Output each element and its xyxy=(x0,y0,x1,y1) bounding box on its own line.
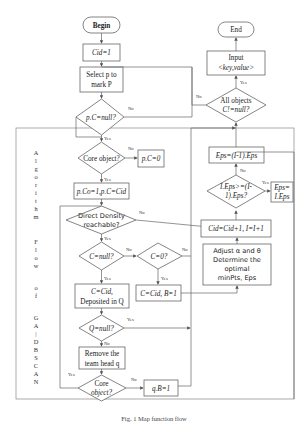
svg-text:o: o xyxy=(34,173,37,180)
svg-text:No: No xyxy=(196,94,202,99)
svg-text:G: G xyxy=(34,314,39,321)
core-object-decision: Core object? xyxy=(78,142,125,174)
svg-text:S: S xyxy=(34,354,38,361)
svg-text:No: No xyxy=(139,210,145,215)
svg-text:Eps=(I-1).Eps: Eps=(I-1).Eps xyxy=(215,152,258,160)
svg-text:No: No xyxy=(131,377,137,382)
svg-text:Yes: Yes xyxy=(127,317,134,322)
svg-text:Yes: Yes xyxy=(262,180,269,185)
remove-head-node: Remove the team head q xyxy=(79,347,125,369)
figure-caption: Fig. 1 Map function flow xyxy=(121,415,187,422)
svg-text:l: l xyxy=(35,157,37,164)
svg-text:Eps=: Eps= xyxy=(273,184,290,192)
svg-text:A: A xyxy=(34,370,39,377)
svg-text:C: C xyxy=(34,362,38,369)
svg-text:p.Co=1,p.C=Cid: p.Co=1,p.C=Cid xyxy=(76,188,127,196)
svg-text:p.C=null?: p.C=null? xyxy=(85,114,116,122)
pco-assign-node: p.Co=1,p.C=Cid xyxy=(74,183,129,199)
svg-text:Yes: Yes xyxy=(68,372,75,377)
svg-text:w: w xyxy=(34,262,39,269)
svg-text:B: B xyxy=(34,346,38,353)
svg-text:1).Eps?: 1).Eps? xyxy=(225,192,248,200)
svg-text:|: | xyxy=(35,330,36,337)
eps-set-node: Eps= I.Eps xyxy=(271,182,293,202)
svg-text:Deposited in Q: Deposited in Q xyxy=(80,298,124,306)
c-null-decision: C=null? xyxy=(79,242,124,270)
svg-text:End: End xyxy=(230,26,242,34)
svg-text:m: m xyxy=(34,213,39,220)
adjust-params-node: Adjust α and θ Determine the optimal min… xyxy=(203,244,271,285)
svg-text:minPts, Eps: minPts, Eps xyxy=(218,274,257,282)
svg-text:q.B=1: q.B=1 xyxy=(152,385,170,393)
svg-text:Remove the: Remove the xyxy=(85,350,120,358)
svg-text:g: g xyxy=(34,165,38,172)
c-zero-decision: C=0? xyxy=(137,243,182,269)
svg-text:h: h xyxy=(34,205,38,212)
svg-text:A: A xyxy=(34,149,39,156)
svg-text:Input: Input xyxy=(228,54,243,62)
qb-one-node: q.B=1 xyxy=(144,380,178,396)
c-cid-deposit-node: C=Cid, Deposited in Q xyxy=(75,284,129,308)
svg-text:Direct Density: Direct Density xyxy=(78,212,125,220)
eps-prev-node: Eps=(I-1).Eps xyxy=(209,147,264,163)
svg-text:C=null?: C=null? xyxy=(89,253,114,261)
svg-text:C=Cid, B=1: C=Cid, B=1 xyxy=(140,290,176,298)
svg-text:f: f xyxy=(35,292,38,299)
svg-text:Core object?: Core object? xyxy=(83,155,120,163)
svg-text:N: N xyxy=(34,378,39,385)
svg-text:No: No xyxy=(128,146,134,151)
svg-text:Yes: Yes xyxy=(104,136,111,141)
input-node: Input <key,value> xyxy=(207,51,265,75)
svg-text:object?: object? xyxy=(91,389,113,397)
q-null-decision: Q=null? xyxy=(79,315,124,341)
svg-text:D: D xyxy=(34,338,39,345)
svg-text:p.C=0: p.C=0 xyxy=(141,155,161,163)
flowchart: A l g o r i t h m F l o w o f G A | D B … xyxy=(0,0,308,425)
svg-text:A: A xyxy=(34,322,39,329)
svg-text:All objects: All objects xyxy=(220,97,252,105)
svg-text:t: t xyxy=(35,197,37,204)
svg-text:C=0?: C=0? xyxy=(151,253,168,261)
begin-node: Begin xyxy=(83,17,120,33)
svg-text:reachable?: reachable? xyxy=(83,221,120,229)
vertical-label: A l g o r i t h m F l o w o f G A | D B … xyxy=(34,149,39,385)
svg-text:I.Eps: I.Eps xyxy=(274,193,290,201)
svg-text:Q=null?: Q=null? xyxy=(89,325,114,333)
svg-text:o: o xyxy=(34,284,37,291)
svg-text:No: No xyxy=(104,341,110,346)
svg-text:F: F xyxy=(34,238,38,245)
svg-text:No: No xyxy=(240,168,246,173)
svg-text:o: o xyxy=(34,254,37,261)
svg-text:r: r xyxy=(35,181,38,188)
svg-text:Begin: Begin xyxy=(93,22,111,30)
svg-text:C=Cid,: C=Cid, xyxy=(91,288,113,296)
svg-text:Select p to: Select p to xyxy=(86,71,117,79)
svg-text:Yes: Yes xyxy=(104,236,111,241)
svg-text:Cid=Cid+1, I=I+1: Cid=Cid+1, I=I+1 xyxy=(208,225,264,233)
svg-text:mark P: mark P xyxy=(91,81,112,89)
svg-text:Core: Core xyxy=(95,380,109,388)
core-object-2-decision: Core object? xyxy=(78,375,126,401)
svg-text:No: No xyxy=(182,247,188,252)
svg-text:team head q: team head q xyxy=(85,360,120,368)
svg-text:I.Eps>=(I-: I.Eps>=(I- xyxy=(219,183,252,191)
svg-text:optimal: optimal xyxy=(225,265,250,273)
svg-text:No: No xyxy=(128,106,134,111)
svg-text:Determine the: Determine the xyxy=(213,256,261,264)
svg-text:Yes: Yes xyxy=(240,80,247,85)
end-node: End xyxy=(218,22,254,37)
svg-text:i: i xyxy=(35,189,37,196)
cid-increment-node: Cid=Cid+1, I=I+1 xyxy=(201,220,271,237)
svg-text:l: l xyxy=(35,246,37,253)
svg-text:Yes: Yes xyxy=(161,276,168,281)
svg-text:C!=null?: C!=null? xyxy=(223,106,250,114)
pc-null-decision: p.C=null? xyxy=(76,99,124,135)
select-p-node: Select p to mark P xyxy=(80,67,123,92)
cid-init-node: Cid=1 xyxy=(83,44,120,61)
svg-text:Adjust α and θ: Adjust α and θ xyxy=(213,247,261,255)
pc-zero-node: p.C=0 xyxy=(138,150,164,167)
svg-text:Yes: Yes xyxy=(104,276,111,281)
eps-compare-decision: I.Eps>=(I- 1).Eps? xyxy=(207,175,265,208)
all-objects-decision: All objects C!=null? xyxy=(206,88,266,122)
svg-text:<key,value>: <key,value> xyxy=(218,64,254,72)
